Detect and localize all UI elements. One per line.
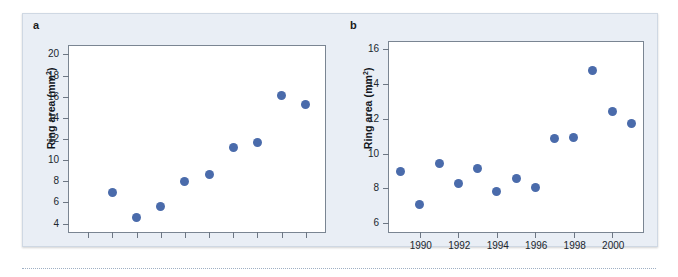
y-tick-label-b: 6 — [373, 217, 379, 228]
data-point — [229, 143, 238, 152]
x-tick-b: 1998 — [574, 232, 575, 238]
x-tick-label-b: 1994 — [487, 240, 509, 251]
panel-letter-a: a — [33, 19, 39, 31]
y-tick-a: 20 — [63, 54, 69, 55]
y-tick-label-a: 20 — [48, 48, 59, 59]
y-tick-label-a: 14 — [48, 112, 59, 123]
x-tick-b: 1990 — [420, 232, 421, 238]
x-tick-label-b: 1998 — [564, 240, 586, 251]
data-point — [277, 91, 286, 100]
data-point — [108, 188, 117, 197]
y-tick-label-b: 8 — [373, 182, 379, 193]
data-point — [627, 119, 636, 128]
data-point — [205, 170, 214, 179]
x-tick-a — [257, 232, 258, 238]
y-tick-b: 12 — [383, 119, 389, 120]
y-tick-b: 8 — [383, 188, 389, 189]
y-tick-label-b: 16 — [368, 43, 379, 54]
y-tick-a: 16 — [63, 97, 69, 98]
plot-area-a: 468101214161820 — [68, 45, 326, 233]
plot-inner-a: 468101214161820 — [69, 46, 325, 232]
x-tick-b: 1994 — [497, 232, 498, 238]
data-point — [473, 164, 482, 173]
data-point — [415, 200, 424, 209]
x-tick-a — [137, 232, 138, 238]
x-tick-a — [233, 232, 234, 238]
y-tick-a: 6 — [63, 202, 69, 203]
y-tick-label-a: 16 — [48, 91, 59, 102]
y-tick-b: 14 — [383, 84, 389, 85]
data-point — [531, 183, 540, 192]
y-tick-label-b: 12 — [368, 113, 379, 124]
y-tick-a: 8 — [63, 181, 69, 182]
data-point — [512, 174, 521, 183]
x-tick-label-b: 1996 — [525, 240, 547, 251]
data-point — [396, 167, 405, 176]
y-axis-title-b-close: ) — [362, 67, 374, 71]
data-point — [550, 134, 559, 143]
panel-letter-b: b — [350, 19, 357, 31]
y-tick-a: 18 — [63, 76, 69, 77]
data-point — [301, 100, 310, 109]
y-tick-b: 10 — [383, 154, 389, 155]
y-tick-label-b: 10 — [368, 148, 379, 159]
y-tick-label-a: 12 — [48, 133, 59, 144]
chart-panel-a: a Ring area (mm2) 468101214161820 — [23, 14, 340, 246]
x-tick-a — [209, 232, 210, 238]
data-point — [253, 138, 262, 147]
y-tick-label-a: 8 — [53, 175, 59, 186]
x-tick-b: 1992 — [458, 232, 459, 238]
x-tick-b: 1996 — [535, 232, 536, 238]
x-tick-label-b: 1990 — [410, 240, 432, 251]
y-tick-label-b: 14 — [368, 78, 379, 89]
y-tick-label-a: 4 — [53, 218, 59, 229]
plot-inner-b: 6810121416199019921994199619982000 — [389, 42, 643, 232]
data-point — [435, 159, 444, 168]
figure-panel: a Ring area (mm2) 468101214161820 b Ring… — [22, 13, 658, 247]
x-tick-a — [306, 232, 307, 238]
y-tick-b: 16 — [383, 49, 389, 50]
x-tick-a — [282, 232, 283, 238]
plot-area-b: 6810121416199019921994199619982000 — [388, 41, 644, 233]
data-point — [132, 213, 141, 222]
y-tick-a: 12 — [63, 139, 69, 140]
y-tick-a: 4 — [63, 224, 69, 225]
data-point — [608, 107, 617, 116]
data-point — [180, 177, 189, 186]
data-point — [569, 133, 578, 142]
data-point — [156, 202, 165, 211]
y-tick-a: 14 — [63, 118, 69, 119]
data-point — [492, 187, 501, 196]
y-axis-title-b-superscript: 2 — [362, 71, 369, 75]
x-tick-a — [161, 232, 162, 238]
x-tick-a — [88, 232, 89, 238]
y-tick-a: 10 — [63, 160, 69, 161]
x-tick-b: 2000 — [612, 232, 613, 238]
y-tick-b: 6 — [383, 223, 389, 224]
x-tick-a — [185, 232, 186, 238]
x-tick-label-b: 2000 — [602, 240, 624, 251]
chart-panel-b: b Ring area (mm2) 6810121416199019921994… — [340, 14, 657, 246]
y-tick-label-a: 18 — [48, 70, 59, 81]
y-tick-label-a: 10 — [48, 154, 59, 165]
footer-divider — [22, 268, 656, 269]
x-tick-label-b: 1992 — [448, 240, 470, 251]
data-point — [588, 66, 597, 75]
data-point — [454, 179, 463, 188]
y-tick-label-a: 6 — [53, 196, 59, 207]
x-tick-a — [112, 232, 113, 238]
